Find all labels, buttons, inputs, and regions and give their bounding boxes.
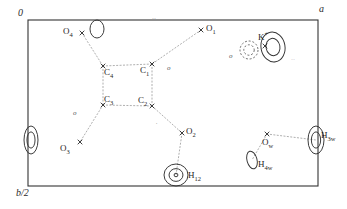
- contour-map-canvas: [0, 0, 347, 209]
- noise-mark-left: o: [73, 110, 77, 117]
- peak-left-edge-ring-1: [24, 126, 38, 154]
- fourier-map-figure: 0ab/2 O4O1C4C1C3C2O2O3K+OwH12H3wH4w ··oo…: [0, 0, 347, 209]
- map-frame: [28, 20, 318, 186]
- peak-O4-lobe-ring-1: [90, 20, 104, 38]
- marker-O4: [80, 31, 85, 36]
- marker-Kp: [263, 44, 268, 49]
- map-frame-rect: [28, 20, 318, 186]
- bond-O4-C4: [82, 33, 103, 66]
- marker-O3: [78, 140, 83, 145]
- atom-label-H3w: H3w: [321, 131, 335, 142]
- origin-label: 0: [18, 8, 23, 18]
- noise-mark-o-right: o: [229, 53, 233, 60]
- atom-label-C3: C3: [104, 95, 113, 106]
- contour-peaks: [24, 20, 324, 186]
- atom-label-C4: C4: [104, 68, 113, 79]
- atom-label-C2: C2: [138, 96, 147, 107]
- atom-label-O3: O3: [60, 144, 70, 155]
- atom-label-O1: O1: [206, 24, 216, 35]
- bond-network: [80, 30, 316, 175]
- noise-mark-mid: ˙: [155, 122, 157, 129]
- atom-label-H12: H12: [188, 171, 201, 182]
- atom-label-H4w: H4w: [258, 160, 272, 171]
- marker-O2: [180, 131, 185, 136]
- marker-Ow: [265, 132, 270, 137]
- atom-label-O2: O2: [186, 127, 196, 138]
- bond-O1-C1: [152, 30, 201, 64]
- peak-K-negative-ring-2: [244, 45, 254, 55]
- atom-markers: [78, 28, 270, 145]
- atom-label-Kp: K+: [258, 31, 268, 42]
- a-axis-label: a: [319, 4, 324, 14]
- noise-mark-top: ··: [152, 16, 156, 22]
- atom-label-Ow: Ow: [262, 138, 273, 149]
- marker-O1: [199, 28, 204, 33]
- noise-mark-kr: ˙˙: [291, 58, 295, 64]
- atom-label-C1: C1: [140, 66, 149, 77]
- b-half-axis-label: b/2: [16, 188, 29, 198]
- bond-C3-O3: [80, 105, 103, 142]
- peak-K-negative-ring-1: [240, 41, 258, 59]
- noise-mark-c1: o: [167, 65, 171, 72]
- atom-label-O4: O4: [63, 27, 73, 38]
